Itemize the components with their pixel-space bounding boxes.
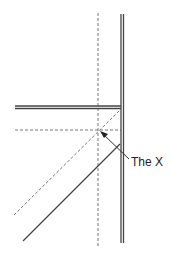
pointer-arrow: [100, 131, 129, 159]
diagram-canvas: The X: [0, 0, 172, 254]
vertical-double-wall: [121, 14, 124, 243]
horizontal-double-wall: [15, 106, 121, 109]
intersection-label: The X: [131, 155, 163, 169]
dashed-diagonal: [14, 110, 120, 215]
arrowhead-icon: [100, 131, 108, 138]
